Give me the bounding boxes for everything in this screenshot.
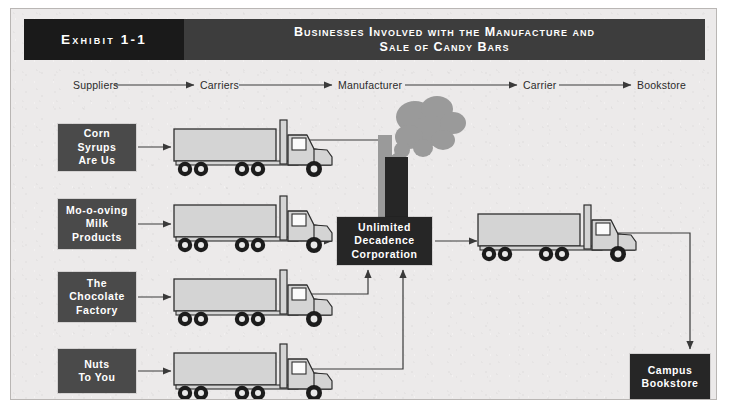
flow-label-manufacturer: Manufacturer (338, 79, 402, 91)
flow-label-carriers: Carriers (200, 79, 239, 91)
manufacturer-box: Unlimited Decadence Corporation (337, 217, 432, 265)
supplier-chocolate-factory-line2: Chocolate (69, 290, 125, 304)
bookstore-line1: Campus (648, 364, 693, 378)
exhibit-title-line2: Sale of Candy Bars (294, 40, 595, 55)
manufacturer-line1: Unlimited (358, 221, 411, 235)
supplier-milk-products-line1: Mo-o-oving (66, 204, 128, 218)
supplier-nuts-to-you-line1: Nuts (84, 358, 110, 372)
exhibit-label: Exhibit 1-1 (61, 32, 147, 47)
manufacturer-line2: Decadence (354, 234, 414, 248)
supplier-corn-syrups: Corn Syrups Are Us (58, 124, 136, 171)
bookstore-line2: Bookstore (642, 377, 699, 391)
supplier-milk-products-line2: Milk (86, 217, 109, 231)
exhibit-figure: Suppliers Carriers Manufacturer Carrier … (0, 0, 731, 412)
supplier-nuts-to-you: Nuts To You (58, 349, 136, 393)
exhibit-label-block: Exhibit 1-1 (24, 19, 184, 60)
flow-label-carrier: Carrier (523, 79, 557, 91)
exhibit-title: Businesses Involved with the Manufacture… (286, 25, 603, 55)
supplier-nuts-to-you-line2: To You (78, 371, 115, 385)
flow-label-suppliers: Suppliers (73, 79, 119, 91)
manufacturer-line3: Corporation (351, 248, 417, 262)
supplier-corn-syrups-line2: Syrups (78, 141, 117, 155)
flow-label-bookstore: Bookstore (637, 79, 686, 91)
supplier-chocolate-factory-line1: The (87, 277, 107, 291)
supplier-chocolate-factory-line3: Factory (76, 304, 118, 318)
exhibit-header: Exhibit 1-1 Businesses Involved with the… (24, 19, 705, 60)
bookstore-box: Campus Bookstore (630, 354, 710, 400)
supplier-milk-products-line3: Products (72, 231, 122, 245)
supplier-milk-products: Mo-o-oving Milk Products (58, 199, 136, 249)
figure-frame: Suppliers Carriers Manufacturer Carrier … (10, 8, 717, 400)
exhibit-title-block: Businesses Involved with the Manufacture… (184, 19, 705, 60)
exhibit-title-line1: Businesses Involved with the Manufacture… (294, 25, 595, 40)
supplier-corn-syrups-line1: Corn (84, 127, 111, 141)
supplier-chocolate-factory: The Chocolate Factory (58, 272, 136, 322)
supplier-corn-syrups-line3: Are Us (78, 154, 115, 168)
